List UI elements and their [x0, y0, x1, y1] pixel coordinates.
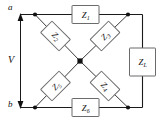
- impedance-subscript-z1: 1: [87, 14, 90, 20]
- node-top-right: [126, 12, 130, 16]
- impedance-label-bottom-series: Z6: [82, 103, 90, 112]
- circuit-schematic-canvas: [0, 0, 161, 122]
- node-top-left: [33, 12, 37, 16]
- terminal-label-b: b: [8, 100, 13, 109]
- impedance-subscript-z6: 6: [87, 107, 90, 113]
- terminal-label-a: a: [8, 3, 13, 12]
- impedance-label-load: ZL: [138, 58, 146, 67]
- voltage-source-label: V: [8, 55, 14, 65]
- node-bottom-left: [33, 105, 37, 109]
- node-bottom-right: [126, 105, 130, 109]
- impedance-label-top-series: Z1: [82, 10, 90, 19]
- impedance-subscript-zl: L: [143, 62, 146, 68]
- voltage-arrow-group: [18, 13, 24, 109]
- circuit-diagram: a b V Z1 Z6 ZL Z2 Z3 Z5 Z4: [0, 0, 161, 122]
- node-center: [77, 58, 82, 63]
